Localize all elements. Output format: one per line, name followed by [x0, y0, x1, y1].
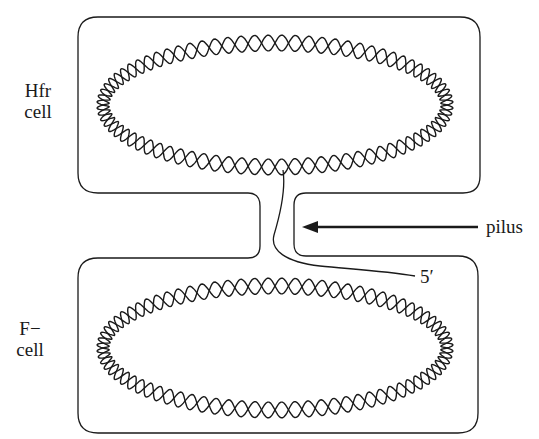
- f-minus-chromosome: [97, 278, 453, 418]
- pilus-label: pilus: [486, 216, 523, 237]
- hfr-label-line1: Hfr: [14, 80, 62, 101]
- hfr-chromosome: [97, 35, 453, 175]
- hfr-cell-membrane: [78, 17, 480, 433]
- hfr-label-line2: cell: [14, 101, 62, 122]
- conjugation-diagram: [0, 0, 539, 439]
- hfr-cell-label: Hfr cell: [14, 80, 62, 122]
- f-minus-label-line2: cell: [6, 339, 54, 360]
- f-minus-label-line1: F−: [6, 318, 54, 339]
- pilus-arrow: [302, 221, 478, 233]
- f-minus-cell-label: F− cell: [6, 318, 54, 360]
- five-prime-label: 5′: [420, 266, 434, 287]
